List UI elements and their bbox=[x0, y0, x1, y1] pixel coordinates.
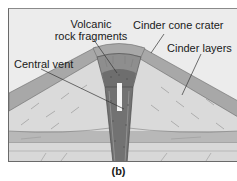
label-central-vent: Central vent bbox=[14, 58, 73, 70]
label-volcanic-line2: rock fragments bbox=[37, 30, 145, 42]
figure-caption: (b) bbox=[0, 165, 237, 177]
label-cinder-cone-crater: Cinder cone crater bbox=[133, 19, 224, 31]
label-cinder-layers: Cinder layers bbox=[167, 42, 232, 54]
label-volcanic-line1: Volcanic bbox=[37, 18, 145, 30]
label-volcanic-rock-fragments: Volcanic rock fragments bbox=[37, 18, 145, 42]
diagram-frame: Volcanic rock fragments Cinder cone crat… bbox=[8, 8, 237, 162]
